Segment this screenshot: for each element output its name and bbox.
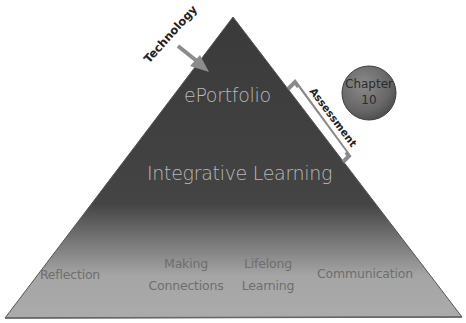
- base-item-reflection: Reflection: [30, 264, 110, 286]
- base-item-lifelong-learning: Lifelong Learning: [228, 253, 308, 297]
- lifelong-learning-line2: Learning: [228, 275, 308, 297]
- making-connections-line2: Connections: [136, 275, 236, 297]
- chapter-badge-label: Chapter 10: [342, 76, 396, 108]
- middle-label: Integrative Learning: [147, 162, 332, 184]
- pyramid-base-line: [5, 317, 462, 318]
- making-connections-line1: Making: [136, 253, 236, 275]
- lifelong-learning-line1: Lifelong: [228, 253, 308, 275]
- pyramid-diagram: Technology Assessment Chapter 10 ePortfo…: [0, 0, 466, 323]
- base-item-communication: Communication: [310, 263, 420, 285]
- chapter-badge-line2: 10: [342, 92, 396, 108]
- apex-label: ePortfolio: [184, 84, 271, 106]
- base-item-making-connections: Making Connections: [136, 253, 236, 297]
- chapter-badge-line1: Chapter: [342, 76, 396, 92]
